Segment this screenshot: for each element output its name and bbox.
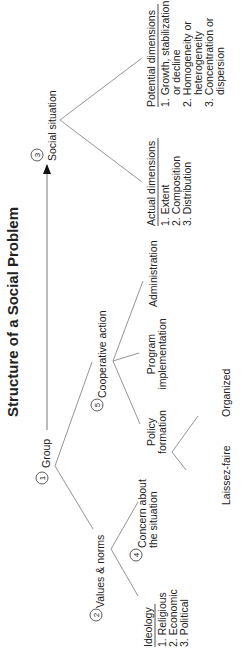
svg-text:3. Distribution: 3. Distribution: [181, 162, 193, 226]
ideology-heading: Ideology: [142, 607, 154, 647]
branch-line: [113, 353, 139, 361]
laissez-faire-label: Laissez-faire: [220, 445, 232, 505]
ideology-list: Ideology 1. Religious 2. Economic 3. Pol…: [142, 589, 190, 647]
svg-text:1: 1: [38, 475, 47, 480]
social-problem-diagram: Structure of a Social Problem 1 Group 3 …: [0, 0, 243, 652]
svg-text:implementation: implementation: [156, 318, 168, 389]
branch-line: [113, 281, 143, 361]
svg-text:the situation: the situation: [147, 491, 159, 548]
branch-line: [60, 120, 142, 182]
node-program-implementation: Program implementation: [145, 318, 168, 389]
node-concern: 4 Concern about the situation: [130, 479, 159, 561]
branch-line: [55, 466, 93, 529]
actual-dimensions-heading: Actual dimensions: [145, 141, 157, 226]
diagram-canvas: Structure of a Social Problem 1 Group 3 …: [0, 0, 243, 652]
potential-dimensions-heading: Potential dimensions: [145, 10, 157, 107]
svg-text:2: 2: [92, 612, 101, 617]
cooperative-action-label: Cooperative action: [96, 310, 108, 398]
branch-line: [60, 58, 142, 120]
node-group: 1 Group: [36, 439, 52, 484]
actual-dimensions: Actual dimensions 1. Extent 2. Compositi…: [145, 138, 193, 226]
social-situation-label: Social situation: [46, 90, 58, 161]
branch-line: [113, 361, 140, 424]
branch-line: [172, 416, 198, 452]
values-norms-label: Values & norms: [94, 535, 106, 608]
svg-text:4: 4: [132, 552, 141, 557]
branch-line: [55, 362, 92, 466]
svg-text:5: 5: [93, 402, 102, 407]
node-social-situation: 3 Social situation: [31, 90, 58, 161]
svg-text:3. Political: 3. Political: [178, 599, 190, 647]
svg-text:dispersion: dispersion: [214, 47, 226, 95]
node-cooperative-action: 5 Cooperative action: [91, 310, 108, 411]
node-policy-formation: Policy formation: [145, 410, 168, 454]
branch-line: [111, 502, 138, 549]
administration-label: Administration: [147, 240, 159, 307]
diagram-title: Structure of a Social Problem: [4, 207, 21, 417]
svg-text:3: 3: [33, 152, 42, 157]
potential-dimensions: Potential dimensions 1. Growth, stabiliz…: [145, 0, 226, 107]
group-label: Group: [40, 439, 52, 468]
branch-line: [172, 452, 186, 470]
node-values-norms: 2 Values & norms: [90, 535, 106, 621]
organized-label: Organized: [220, 368, 232, 417]
svg-text:formation: formation: [156, 410, 168, 454]
